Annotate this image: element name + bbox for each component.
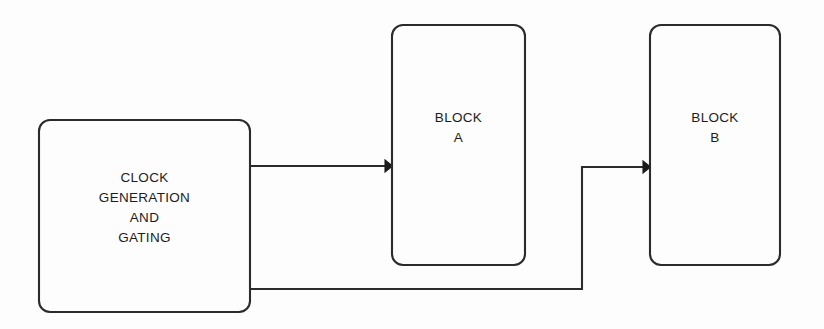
connector-clock-to-block-a — [250, 160, 393, 172]
block-label-block-a: BLOCK A — [392, 108, 525, 148]
block-diagram-canvas: CLOCK GENERATION AND GATING BLOCK A BLOC… — [0, 0, 824, 329]
diagram-vector-layer — [0, 0, 824, 329]
block-label-clock-generation-and-gating: CLOCK GENERATION AND GATING — [39, 168, 250, 248]
block-label-block-b: BLOCK B — [650, 108, 780, 148]
